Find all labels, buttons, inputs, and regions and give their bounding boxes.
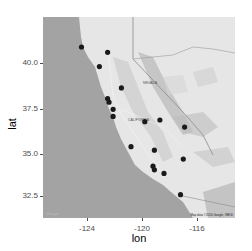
data-point — [161, 171, 166, 176]
y-axis-label: lat — [6, 114, 18, 134]
y-tick-label: 32.5 — [8, 191, 38, 200]
google-logo: Google — [46, 211, 59, 216]
data-point — [152, 167, 157, 172]
y-tick-label: 37.5 — [8, 104, 38, 113]
map-panel: NEVADA CALIFORNIA Google Map data ©2016 … — [43, 17, 235, 218]
y-tick-label: 40.0 — [8, 58, 38, 67]
data-point — [142, 119, 147, 124]
data-point — [152, 148, 157, 153]
data-point — [106, 100, 111, 105]
x-tick-label: -116 — [182, 224, 212, 233]
data-point — [111, 114, 116, 119]
x-tick-label: -124 — [72, 224, 102, 233]
data-point — [97, 64, 102, 69]
data-point — [181, 157, 186, 162]
data-points-layer — [43, 17, 235, 218]
x-tick-mark — [197, 218, 198, 221]
map-attribution: Map data ©2016 Google, INEGI — [190, 213, 233, 217]
data-point — [79, 44, 84, 49]
data-point — [157, 117, 162, 122]
y-tick-mark — [40, 196, 43, 197]
data-point — [119, 85, 124, 90]
y-tick-label: 35.0 — [8, 149, 38, 158]
y-tick-mark — [40, 63, 43, 64]
y-tick-mark — [40, 109, 43, 110]
y-tick-mark — [40, 154, 43, 155]
x-tick-mark — [142, 218, 143, 221]
data-point — [178, 192, 183, 197]
data-point — [182, 125, 187, 130]
x-axis-label: lon — [124, 232, 154, 244]
data-point — [128, 144, 133, 149]
data-point — [111, 107, 116, 112]
data-point — [105, 50, 110, 55]
x-tick-mark — [87, 218, 88, 221]
